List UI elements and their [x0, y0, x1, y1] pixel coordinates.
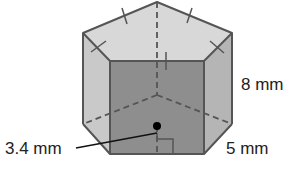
center-point [153, 122, 161, 130]
apothem-label: 3.4 mm [5, 139, 62, 158]
height-label: 8 mm [241, 75, 284, 94]
base-edge-label: 5 mm [226, 139, 269, 158]
pentagonal-prism-diagram: 8 mm 5 mm 3.4 mm [0, 0, 297, 169]
